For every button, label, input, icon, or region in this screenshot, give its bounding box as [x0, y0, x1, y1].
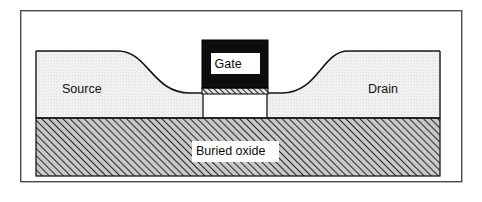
figure-root: Source Drain Gate Buried oxide: [0, 0, 482, 202]
source-label: Source: [62, 82, 102, 96]
device-cross-section-diagram: Source Drain Gate Buried oxide: [0, 0, 482, 202]
gate-oxide-layer: [202, 88, 268, 94]
channel-region: [203, 93, 267, 118]
buried-oxide-label: Buried oxide: [196, 144, 266, 158]
gate-label: Gate: [215, 57, 242, 71]
drain-label: Drain: [368, 82, 398, 96]
